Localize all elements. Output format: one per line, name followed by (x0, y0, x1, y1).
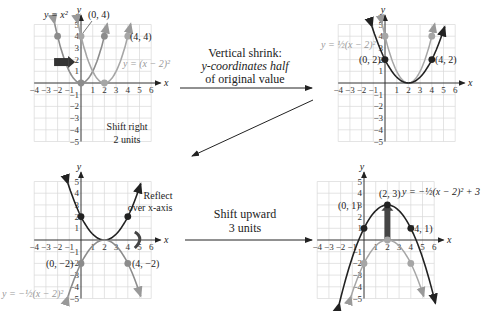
x-tick: −4 (29, 242, 39, 252)
point-marker (407, 260, 414, 267)
y-axis-label: y (76, 4, 82, 15)
caption: Reflect (144, 190, 173, 201)
x-tick: −3 (41, 85, 51, 95)
panel-reflect: xy−4−3−2−112345654321−1−2−3−4−5Reflectov… (1, 161, 173, 304)
point-marker (78, 213, 85, 220)
x-axis-label: x (163, 77, 169, 88)
x-tick: −2 (53, 242, 63, 252)
point-marker (78, 260, 85, 267)
point-label: (4, 4) (130, 31, 152, 43)
y-tick: −4 (373, 125, 383, 135)
x-tick: 1 (394, 85, 399, 95)
point-label: (4, 2) (435, 54, 457, 66)
x-tick: 2 (102, 85, 107, 95)
x-tick: 1 (90, 85, 95, 95)
arrow-label: Vertical shrink: (208, 46, 282, 60)
transition-arrows: Vertical shrink:y-coordinates halfof ori… (180, 46, 313, 240)
x-tick: 4 (126, 242, 131, 252)
y-tick: −5 (69, 137, 79, 147)
x-tick: 2 (406, 85, 411, 95)
x-tick: 6 (432, 242, 437, 252)
x-tick: −4 (312, 242, 322, 252)
transformations-diagram: xy−4−3−2−112345654321−1−2−3−4−5y = x²(0,… (0, 0, 487, 311)
equation-label: y = −½(x − 2)² (1, 288, 64, 300)
y-tick: −1 (373, 90, 383, 100)
panel-shift-up: xy−4−3−2−112345654321−1−2−3−4−5(2, 3)(0,… (312, 161, 480, 304)
equation-label: y = x² (43, 9, 69, 20)
y-tick: 2 (358, 212, 363, 222)
x-tick: 6 (149, 242, 154, 252)
point-marker (384, 237, 391, 244)
y-tick: 4 (75, 188, 80, 198)
arrow-label: Shift upward (214, 207, 276, 221)
x-tick: 4 (430, 85, 435, 95)
x-tick: 3 (418, 85, 423, 95)
x-tick: −3 (345, 85, 355, 95)
point-marker (78, 80, 85, 87)
arrow-label: 3 units (229, 221, 262, 235)
y-tick: −2 (373, 101, 383, 111)
y-tick: −4 (69, 125, 79, 135)
point-label: (4, 1) (411, 223, 433, 235)
x-axis-label: x (467, 77, 473, 88)
point-label: (0, 2) (359, 54, 381, 66)
point-marker (384, 202, 391, 209)
x-tick: 5 (441, 85, 446, 95)
y-tick: 3 (75, 43, 80, 53)
panel-shift-right: xy−4−3−2−112345654321−1−2−3−4−5y = x²(0,… (29, 4, 171, 147)
x-tick: 6 (453, 85, 458, 95)
y-tick: 5 (75, 177, 80, 187)
y-tick: 4 (358, 188, 363, 198)
y-tick: −3 (373, 113, 383, 123)
y-tick: 1 (75, 66, 80, 76)
x-tick: −3 (41, 242, 51, 252)
arrow-to-reflect (192, 100, 313, 156)
point-label: (0, 1) (338, 200, 360, 212)
y-tick: −1 (69, 90, 79, 100)
point-label: (0, −2) (46, 258, 73, 270)
caption: Shift right (107, 121, 148, 132)
y-tick: −2 (352, 258, 362, 268)
y-tick: −3 (69, 113, 79, 123)
point-marker (382, 33, 389, 40)
x-tick: −2 (53, 85, 63, 95)
caption: 2 units (114, 134, 141, 145)
shift-up-arrow-icon (384, 210, 390, 240)
x-tick: −2 (336, 242, 346, 252)
y-tick: −1 (69, 247, 79, 257)
point-marker (124, 213, 131, 220)
x-tick: 4 (409, 242, 414, 252)
point-marker (78, 33, 85, 40)
y-tick: −5 (352, 294, 362, 304)
arrow-label: of original value (205, 72, 284, 86)
point-label: (4, −2) (132, 258, 159, 270)
y-tick: 2 (75, 55, 80, 65)
panel-vertical-shrink: xy−4−3−2−112345654321−1−2−3−4−5y = ½(x −… (320, 4, 473, 147)
x-tick: 5 (137, 85, 142, 95)
y-tick: −5 (373, 137, 383, 147)
point-label: (2, 3) (379, 188, 401, 200)
point-marker (428, 33, 435, 40)
x-axis-label: x (163, 234, 169, 245)
y-tick: 5 (358, 177, 363, 187)
equation-label: y = (x − 2)² (122, 58, 171, 70)
equation-label: y = ½(x − 2)² (320, 39, 377, 51)
equation-label: y = −½(x − 2)² + 3 (401, 186, 480, 198)
x-axis-label: x (446, 234, 452, 245)
x-tick: −3 (324, 242, 334, 252)
point-marker (382, 56, 389, 63)
point-marker (101, 80, 108, 87)
x-tick: 2 (385, 242, 390, 252)
point-label: (0, 4) (88, 9, 110, 21)
x-tick: 3 (114, 85, 119, 95)
point-marker (361, 225, 368, 232)
point-marker (101, 33, 108, 40)
arrow-label: y-coordinates half (200, 59, 290, 73)
x-tick: 4 (126, 85, 131, 95)
y-axis-label: y (380, 4, 386, 15)
shift-arrow-icon (54, 58, 68, 66)
diagram-canvas: xy−4−3−2−112345654321−1−2−3−4−5y = x²(0,… (0, 0, 487, 311)
point-marker (124, 260, 131, 267)
y-tick: 1 (379, 66, 384, 76)
y-axis-label: y (76, 161, 82, 172)
